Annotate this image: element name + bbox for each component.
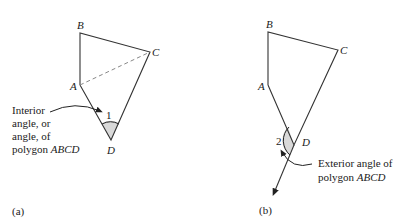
vertex-d-label: D — [106, 144, 115, 156]
panel-a: B C A D 1 Interior angle, or angle, of p… — [12, 19, 160, 218]
annotation-line-3: angle, of — [12, 130, 51, 142]
vertex-c-label: C — [152, 46, 160, 58]
annotation-line-1: Exterior angle of — [318, 157, 393, 169]
annotation-line-2: angle, or — [12, 117, 51, 129]
annotation-line-4: polygon ABCD — [12, 143, 80, 155]
vertex-b-label: B — [266, 18, 273, 30]
polygon-angle-diagram: B C A D 1 Interior angle, or angle, of p… — [0, 0, 395, 224]
angle-number-2: 2 — [276, 135, 282, 147]
annotation-line-2: polygon ABCD — [318, 171, 386, 183]
vertex-a-label: A — [257, 80, 265, 92]
panel-b: B C A D 2 Exterior angle of polygon ABCD… — [257, 18, 393, 217]
extension-line-cd — [274, 145, 294, 193]
diagonal-ac — [80, 52, 150, 85]
angle-number-1: 1 — [106, 109, 112, 121]
caption-a: (a) — [12, 205, 25, 218]
vertex-a-label: A — [69, 80, 77, 92]
vertex-c-label: C — [340, 44, 348, 56]
vertex-b-label: B — [77, 19, 84, 31]
interior-angle-shade — [102, 121, 119, 140]
annotation-line-1: Interior — [12, 104, 45, 116]
vertex-d-label: D — [301, 136, 310, 148]
polygon-abcd-b — [268, 32, 338, 145]
caption-b: (b) — [259, 204, 272, 217]
